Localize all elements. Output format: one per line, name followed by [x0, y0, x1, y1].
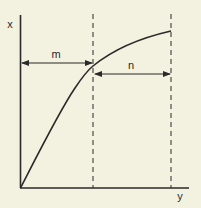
vertical-axis-label: x: [7, 18, 13, 30]
horizontal-axis-label: y: [177, 190, 183, 202]
m-label: m: [51, 48, 60, 60]
curve: [21, 31, 172, 188]
diagram-canvas: m n x y: [0, 0, 201, 208]
n-label: n: [128, 59, 134, 71]
